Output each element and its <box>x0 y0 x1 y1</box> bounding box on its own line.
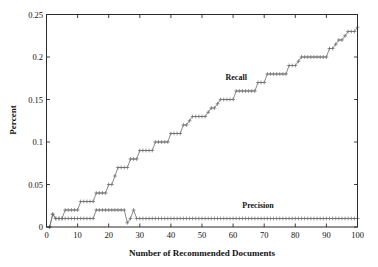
x-tick-label: 10 <box>73 230 82 240</box>
x-tick-label: 80 <box>291 230 300 240</box>
y-tick-label: 0.25 <box>28 10 43 20</box>
x-tick-label: 20 <box>104 230 113 240</box>
annotation-precision: Precision <box>242 201 274 210</box>
precision-recall-plot: 0102030405060708090100 00.050.10.150.20.… <box>0 0 378 267</box>
x-tick-label: 50 <box>198 230 207 240</box>
x-tick-label: 60 <box>229 230 238 240</box>
y-tick-label: 0.05 <box>28 180 43 190</box>
y-tick-label: 0.15 <box>28 95 43 105</box>
x-tick-label: 90 <box>322 230 331 240</box>
x-tick-label: 0 <box>44 230 48 240</box>
x-tick-label: 70 <box>260 230 269 240</box>
annotation-recall: Recall <box>226 73 248 82</box>
x-tick-label: 100 <box>351 230 364 240</box>
chart-figure: 0102030405060708090100 00.050.10.150.20.… <box>0 0 378 267</box>
x-axis-title: Number of Recommended Documents <box>129 248 276 258</box>
y-axis-title: Percent <box>8 105 18 134</box>
x-tick-label: 40 <box>167 230 176 240</box>
y-tick-label: 0 <box>39 222 43 232</box>
x-tick-label: 30 <box>136 230 145 240</box>
y-tick-label: 0.1 <box>32 137 43 147</box>
y-tick-label: 0.2 <box>32 52 43 62</box>
